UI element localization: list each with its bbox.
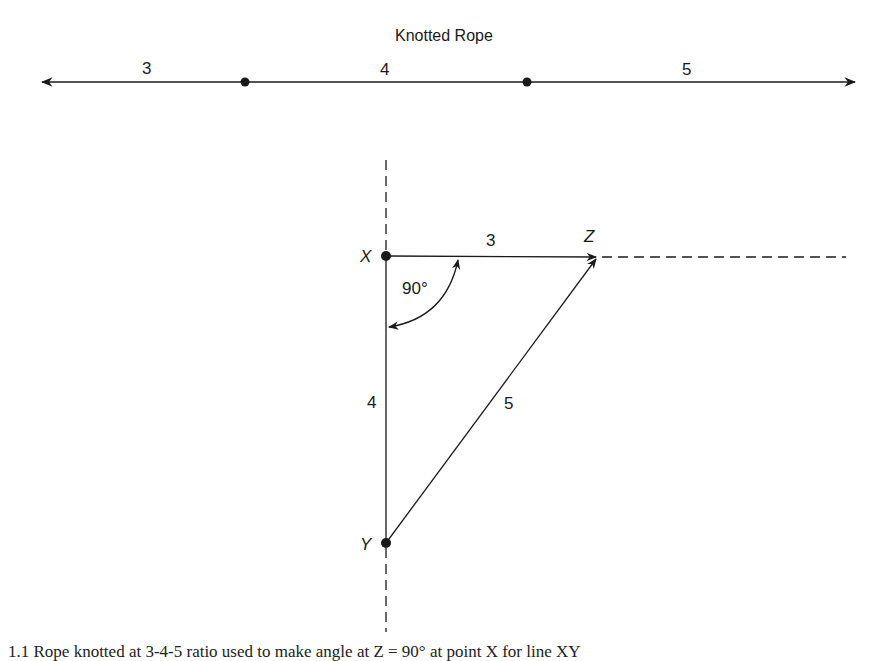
rope-segment-label-4: 4 [380, 61, 389, 78]
side-xy-label: 4 [367, 394, 376, 411]
rope-segment-label-3: 3 [142, 60, 151, 77]
side-yz [386, 259, 596, 543]
point-x [381, 251, 391, 261]
rope-knot-1 [241, 78, 250, 87]
rope-knot-2 [523, 78, 532, 87]
side-xz [386, 256, 596, 257]
rope-segment-label-5: 5 [682, 61, 691, 78]
point-z-label: Z [584, 228, 594, 245]
point-x-label: X [360, 248, 371, 265]
point-y-label: Y [360, 536, 371, 553]
angle-label: 90° [402, 280, 428, 297]
figure-caption: 1.1 Rope knotted at 3-4-5 ratio used to … [8, 643, 581, 660]
side-yz-label: 5 [504, 395, 513, 412]
rope-title: Knotted Rope [395, 28, 493, 44]
side-xz-label: 3 [486, 232, 495, 249]
point-y [381, 538, 391, 548]
